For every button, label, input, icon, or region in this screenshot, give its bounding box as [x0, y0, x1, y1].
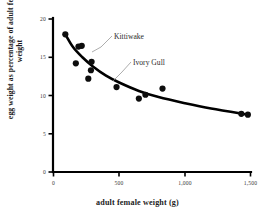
data-points-group: [62, 31, 251, 118]
chart-figure: 20 15 10 5 0 0 500 1,000 1,500 Kittiw: [0, 0, 275, 219]
x-axis: 0 500 1,000 1,500: [52, 172, 257, 186]
annotation-ivory-gull: Ivory Gull: [133, 58, 165, 67]
y-tick-label-5: 5: [43, 131, 46, 137]
y-axis-label-wrapper: egg weight as percentage of adult female…: [2, 0, 28, 124]
y-axis: 20 15 10 5 0: [40, 16, 53, 175]
x-tick-label-1000: 1,000: [178, 180, 192, 186]
data-point: [62, 31, 68, 37]
data-point: [136, 95, 142, 101]
y-tick-label-0: 0: [43, 169, 46, 175]
data-point: [238, 111, 244, 117]
data-point: [79, 43, 85, 49]
y-axis-label: egg weight as percentage of adult female…: [6, 0, 24, 124]
trend-curve: [65, 34, 248, 114]
y-tick-label-20: 20: [40, 16, 46, 22]
data-point: [159, 86, 165, 92]
x-tick-label-0: 0: [52, 180, 55, 186]
scatter-plot: 20 15 10 5 0 0 500 1,000 1,500 Kittiw: [0, 0, 275, 219]
y-tick-label-15: 15: [40, 54, 46, 60]
annotation-kittiwake: Kittiwake: [114, 32, 145, 41]
x-axis-label: adult female weight (g): [0, 198, 275, 207]
data-point: [245, 112, 251, 118]
ivory-gull-leader-line: [113, 62, 131, 81]
data-point: [85, 76, 91, 82]
data-point: [73, 60, 79, 66]
data-point: [88, 67, 94, 73]
data-point: [142, 92, 148, 98]
y-tick-label-10: 10: [40, 93, 46, 99]
data-point: [113, 84, 119, 90]
x-tick-label-1500: 1,500: [244, 180, 258, 186]
data-point: [88, 59, 94, 65]
annotation-leaders: [92, 36, 131, 81]
x-tick-label-500: 500: [115, 180, 124, 186]
kittiwake-leader-line: [92, 36, 112, 52]
